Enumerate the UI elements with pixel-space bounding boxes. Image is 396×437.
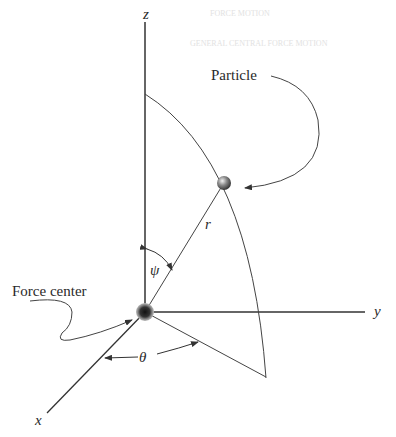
force-center-label: Force center: [12, 283, 87, 299]
theta-label: θ: [139, 349, 147, 365]
bleed-text-2: GENERAL CENTRAL FORCE MOTION: [190, 39, 328, 48]
force-center-marker: [136, 303, 154, 321]
meridian-arc: [145, 94, 266, 378]
particle-label: Particle: [211, 67, 257, 83]
projection-line: [145, 312, 266, 377]
psi-label: ψ: [150, 262, 160, 278]
particle-sphere: [217, 176, 231, 190]
particle-pointer: [245, 76, 319, 188]
bleed-text-1: FORCE MOTION: [210, 9, 270, 18]
theta-angle-arc-right: [157, 342, 198, 354]
x-axis-label: x: [34, 412, 42, 428]
central-force-diagram: FORCE MOTION GENERAL CENTRAL FORCE MOTIO…: [0, 0, 396, 437]
radius-vector: [145, 186, 222, 312]
force-center-pointer: [30, 300, 132, 341]
y-axis-label: y: [372, 303, 381, 319]
z-axis-label: z: [142, 6, 149, 22]
theta-angle-arc-left: [105, 357, 138, 358]
radius-label: r: [205, 216, 211, 232]
x-axis: [47, 312, 145, 413]
